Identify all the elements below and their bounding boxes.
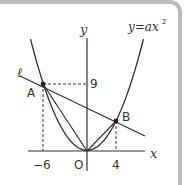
line-label: ℓ xyxy=(17,65,23,80)
x-axis-label: x xyxy=(150,146,158,161)
origin-label: O xyxy=(74,158,83,172)
point-B-label: B xyxy=(122,110,130,124)
y-tick-9: 9 xyxy=(90,77,98,91)
x-tick-4: 4 xyxy=(112,158,120,172)
coordinate-plane: y y=ax 2 x ℓ A B 9 −6 4 O xyxy=(0,0,186,185)
line-l xyxy=(20,76,145,136)
y-axis-label: y xyxy=(79,22,88,37)
point-A-label: A xyxy=(27,86,36,100)
equation-exponent: 2 xyxy=(162,18,166,26)
segment-OB xyxy=(87,121,116,151)
equation-label: y=ax xyxy=(127,20,159,34)
point-B-marker xyxy=(114,119,119,124)
x-tick-neg6: −6 xyxy=(33,158,51,172)
segment-OA xyxy=(43,84,87,151)
point-A-marker xyxy=(41,82,46,87)
